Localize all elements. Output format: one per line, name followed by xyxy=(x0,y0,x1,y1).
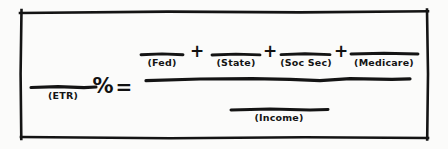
income-blank-line xyxy=(231,109,328,110)
percent-symbol: % xyxy=(92,74,113,98)
equals-symbol: = xyxy=(116,75,133,99)
etr-blank-line xyxy=(31,87,96,88)
plus-operator-3: + xyxy=(334,41,348,61)
medicare-label: (Medicare) xyxy=(354,57,414,68)
plus-operator-1: + xyxy=(190,41,204,61)
soc-sec-label: (Soc Sec) xyxy=(280,57,332,68)
state-blank-line xyxy=(212,54,260,55)
medicare-blank-line xyxy=(351,53,418,54)
fed-blank-line xyxy=(141,54,183,55)
etr-label: (ETR) xyxy=(48,90,78,101)
state-label: (State) xyxy=(217,57,256,68)
fed-label: (Fed) xyxy=(147,57,176,68)
socsec-blank-line xyxy=(281,54,330,55)
handwritten-formula-diagram: (ETR) % = (Fed) (State) (Soc Sec) (Medic… xyxy=(0,0,448,149)
plus-operator-2: + xyxy=(263,41,277,61)
formula-strokes xyxy=(0,0,448,149)
income-label: (Income) xyxy=(254,112,303,123)
main-fraction-bar xyxy=(146,79,410,81)
